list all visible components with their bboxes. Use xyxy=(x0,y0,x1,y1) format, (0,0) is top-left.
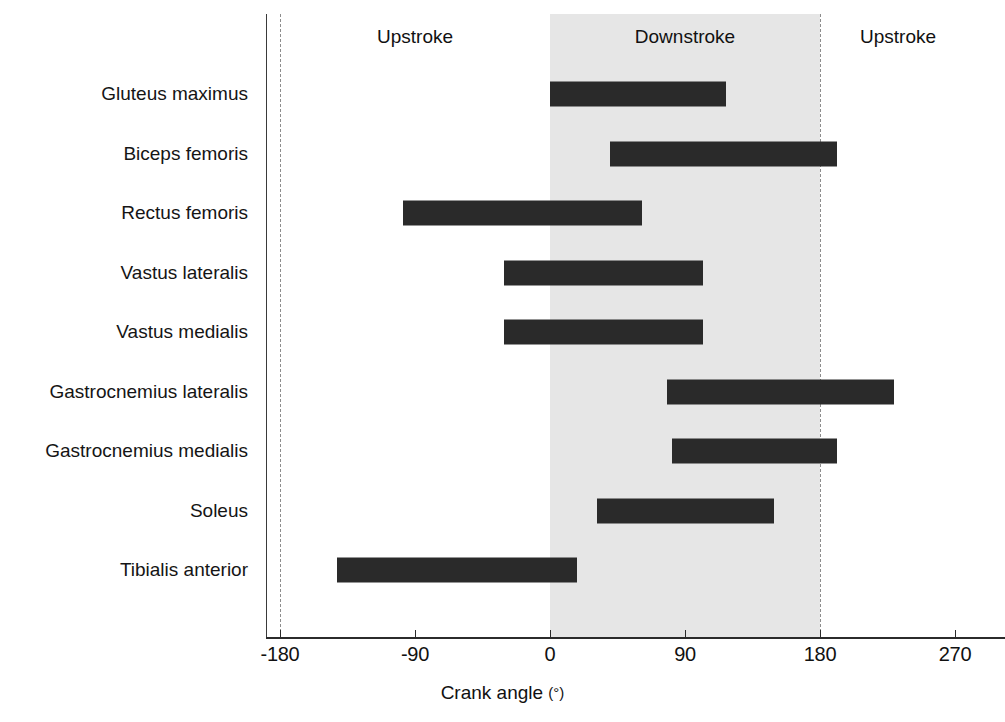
category-label: Gastrocnemius lateralis xyxy=(49,381,248,403)
category-label: Soleus xyxy=(190,500,248,522)
activation-bar xyxy=(550,82,726,107)
x-axis-tick xyxy=(550,630,551,638)
category-label: Vastus medialis xyxy=(116,321,248,343)
x-axis-title-unit: (°) xyxy=(548,684,564,701)
x-axis-tick-label: -90 xyxy=(401,643,429,666)
x-axis-title-text: Crank angle xyxy=(441,682,543,703)
category-label: Gastrocnemius medialis xyxy=(45,440,248,462)
reference-line-minus180 xyxy=(280,14,281,637)
x-axis-tick xyxy=(280,630,281,638)
activation-bar xyxy=(667,379,894,404)
reference-line-180 xyxy=(820,14,821,637)
activation-bar xyxy=(337,558,577,583)
x-axis-tick-label: 0 xyxy=(545,643,556,666)
x-axis-line xyxy=(266,637,1005,639)
category-label: Gluteus maximus xyxy=(101,83,248,105)
activation-bar xyxy=(403,201,642,226)
category-label: Biceps femoris xyxy=(123,143,248,165)
x-axis-tick xyxy=(955,630,956,638)
x-axis-tick xyxy=(415,630,416,638)
category-label: Rectus femoris xyxy=(121,202,248,224)
activation-bar xyxy=(504,320,704,345)
x-axis-tick xyxy=(820,630,821,638)
activation-bar xyxy=(672,439,837,464)
x-axis-tick-label: -180 xyxy=(261,643,300,666)
annotation-upstroke-left: Upstroke xyxy=(377,26,453,48)
category-label: Tibialis anterior xyxy=(120,559,248,581)
x-axis-tick-label: 270 xyxy=(939,643,971,666)
category-label: Vastus lateralis xyxy=(121,262,248,284)
x-axis-tick-label: 90 xyxy=(674,643,696,666)
y-axis-spine xyxy=(266,14,267,637)
activation-bar xyxy=(597,498,774,523)
annotation-downstroke: Downstroke xyxy=(635,26,735,48)
emg-activation-chart: Upstroke Downstroke Upstroke Gluteus max… xyxy=(0,0,1005,722)
activation-bar xyxy=(610,141,837,166)
x-axis-tick-label: 180 xyxy=(804,643,836,666)
activation-bar xyxy=(504,260,704,285)
x-axis-title: Crank angle (°) xyxy=(0,682,1005,704)
annotation-upstroke-right: Upstroke xyxy=(860,26,936,48)
x-axis-tick xyxy=(685,630,686,638)
